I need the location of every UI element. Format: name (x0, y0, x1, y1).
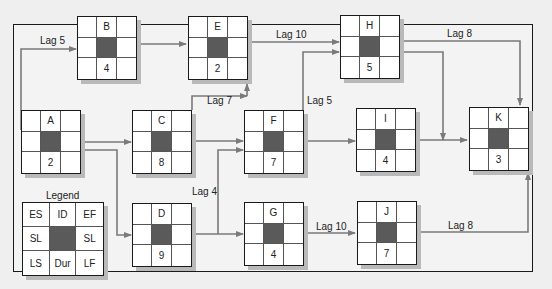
activity-id: E (208, 17, 227, 38)
center-cell (208, 38, 227, 59)
activity-id: I (376, 109, 395, 130)
activity-node-f[interactable]: F 7 (244, 110, 304, 174)
center-cell (50, 227, 77, 251)
center-cell (152, 225, 171, 246)
lag-label-e-h: Lag 10 (276, 29, 307, 40)
activity-node-c[interactable]: C 8 (132, 110, 192, 174)
activity-duration: 4 (376, 150, 395, 171)
legend-title: Legend (46, 190, 79, 201)
activity-duration: 2 (41, 152, 60, 173)
activity-id: F (264, 111, 283, 132)
lag-label-d-f: Lag 4 (192, 186, 217, 197)
lag-label-a-b: Lag 5 (40, 35, 65, 46)
activity-duration: 5 (360, 57, 379, 78)
lag-label-c-e: Lag 7 (207, 95, 232, 106)
lag-label-h-k: Lag 8 (447, 28, 472, 39)
activity-node-i[interactable]: I 4 (356, 108, 416, 172)
center-cell (376, 130, 395, 151)
lag-label-f-h: Lag 5 (307, 95, 332, 106)
activity-duration: 9 (152, 245, 171, 266)
activity-duration: 7 (264, 152, 283, 173)
activity-node-k[interactable]: K 3 (469, 107, 529, 171)
activity-id: B (97, 17, 116, 38)
activity-id: D (152, 204, 171, 225)
center-cell (264, 224, 283, 245)
activity-id: J (377, 202, 396, 223)
activity-node-h[interactable]: H 5 (340, 15, 400, 79)
center-cell (97, 38, 116, 59)
center-cell (377, 223, 396, 244)
legend-node: ES ID EF SL SL LS Dur LF (22, 202, 104, 276)
activity-id: H (360, 16, 379, 37)
activity-node-j[interactable]: J 7 (357, 201, 417, 265)
center-cell (360, 37, 379, 58)
center-cell (152, 132, 171, 153)
activity-id: C (152, 111, 171, 132)
activity-duration: 4 (264, 244, 283, 265)
activity-duration: 3 (489, 149, 508, 170)
activity-node-b[interactable]: B 4 (77, 16, 137, 80)
lag-label-g-j: Lag 10 (316, 221, 347, 232)
activity-id: A (41, 111, 60, 132)
activity-node-e[interactable]: E 2 (188, 16, 248, 80)
center-cell (41, 132, 60, 153)
activity-id: G (264, 203, 283, 224)
activity-duration: 7 (377, 243, 396, 264)
center-cell (264, 132, 283, 153)
activity-duration: 4 (97, 58, 116, 79)
activity-id: K (489, 108, 508, 129)
activity-node-g[interactable]: G 4 (244, 202, 304, 266)
lag-label-j-k: Lag 8 (448, 220, 473, 231)
center-cell (489, 129, 508, 150)
activity-duration: 8 (152, 152, 171, 173)
activity-duration: 2 (208, 58, 227, 79)
activity-node-a[interactable]: A 2 (21, 110, 81, 174)
activity-node-d[interactable]: D 9 (132, 203, 192, 267)
